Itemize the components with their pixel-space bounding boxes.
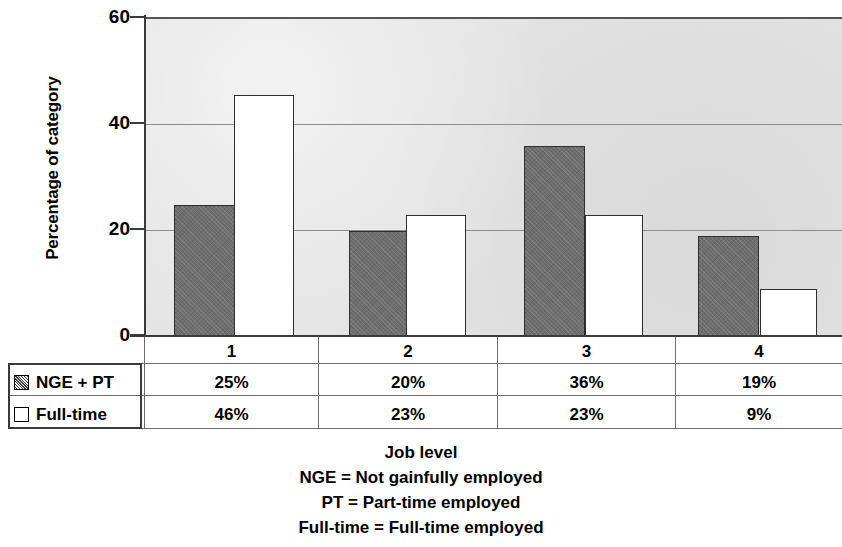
table-cell-full-time-2: 23% [319,399,497,430]
y-axis-tick-group: 60 40 20 0 [62,0,130,347]
data-table: 1 2 3 4 NGE + PT 25% 20% 36% 19% Full-ti… [0,336,842,430]
bar-nge-pt-1 [174,205,235,337]
y-tick-label-60: 60 [70,7,130,26]
table-cell-nge-pt-4: 19% [676,367,842,398]
table-vrule-3 [675,336,676,429]
bar-full-time-4 [760,289,817,337]
bar-nge-pt-2 [349,231,407,337]
y-tick-mark-60 [130,16,144,18]
caption-line-full-time: Full-time = Full-time employed [0,515,842,540]
table-cell-nge-pt-3: 36% [498,367,675,398]
bar-full-time-2 [406,215,466,337]
bar-nge-pt-4 [698,236,759,337]
table-vrule-0 [144,336,145,429]
plot-area [145,17,842,337]
table-cell-full-time-4: 9% [676,399,842,430]
bar-nge-pt-3 [524,146,585,337]
bar-full-time-3 [585,215,643,337]
y-axis-title: Percentage of category [43,8,63,328]
y-tick-label-20: 20 [70,219,130,238]
y-axis-line [144,15,146,337]
table-cell-nge-pt-1: 25% [145,367,318,398]
table-vrule-2 [497,336,498,429]
table-cell-full-time-1: 46% [145,399,318,430]
y-tick-mark-40 [130,122,144,124]
table-cell-full-time-3: 23% [498,399,675,430]
caption-line-pt: PT = Part-time employed [0,490,842,515]
caption-line-job-level: Job level [0,440,842,465]
legend-box [8,363,142,429]
table-vrule-1 [318,336,319,429]
y-tick-mark-20 [130,228,144,230]
x-axis-line [130,335,842,337]
bar-full-time-1 [234,95,294,337]
bar-chart-figure: Percentage of category 60 40 20 0 1 2 [0,0,842,547]
y-tick-label-40: 40 [70,113,130,132]
table-cell-nge-pt-2: 20% [319,367,497,398]
caption-line-nge: NGE = Not gainfully employed [0,465,842,490]
chart-caption: Job level NGE = Not gainfully employed P… [0,440,842,540]
